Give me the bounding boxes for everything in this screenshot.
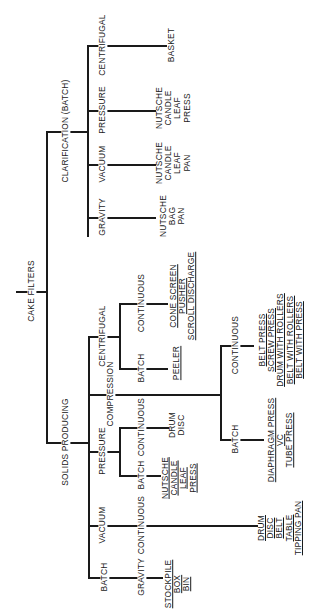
sp-vacuum-line xyxy=(88,525,258,527)
solids-spine xyxy=(88,336,90,577)
sp-comp-spine xyxy=(220,345,222,439)
root-spine xyxy=(46,131,48,443)
clar-spine xyxy=(87,45,89,237)
sp-comp-batch-line xyxy=(220,439,264,441)
sp-pres-spine xyxy=(119,427,121,475)
sp-cent-spine xyxy=(119,303,121,368)
